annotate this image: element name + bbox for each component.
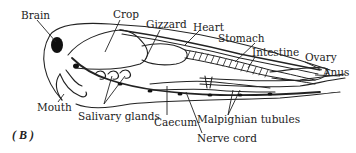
label-stomach: Stomach [218,33,265,44]
insect-anatomy-diagram: Brain Crop Gizzard Heart Stomach Intesti… [0,0,356,153]
gizzard-outline [142,44,187,65]
label-crop: Crop [113,9,139,20]
leader-intestine [248,57,255,68]
salivary-glands-outline [95,70,131,79]
label-mouth: Mouth [37,102,72,113]
label-gizzard: Gizzard [146,19,187,30]
panel-label: ( B ) [12,129,34,141]
label-anus: Anus [323,67,350,78]
label-ovary: Ovary [305,52,337,63]
label-nerve-cord: Nerve cord [197,133,257,144]
leader-brain [37,20,56,42]
label-caecum: Caecum [154,117,197,128]
leader-salivary [104,76,125,104]
label-intestine: Intestine [252,47,299,58]
label-salivary-glands: Salivary glands [78,111,160,122]
label-heart: Heart [193,22,224,33]
body-outline-upper [44,23,330,100]
label-brain: Brain [21,10,50,21]
leader-malpighian [228,90,240,115]
leader-crop [105,20,120,52]
label-malpighian-tubules: Malpighian tubules [197,114,300,125]
